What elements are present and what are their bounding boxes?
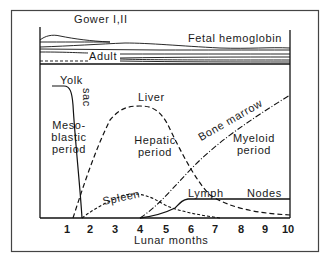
tick-9: 9 — [262, 224, 268, 235]
label-mesoblastic-1: Meso- — [48, 120, 90, 131]
label-liver: Liver — [138, 92, 165, 103]
label-myeloid-1: Myeloid — [228, 133, 280, 144]
label-lymph: Lymph — [188, 188, 224, 199]
adult-band-bottom — [120, 61, 290, 62]
hematopoiesis-diagram: Gower I,II Fetal hemoglobin Adult Yolk s… — [0, 0, 335, 263]
gower-band-top — [40, 35, 110, 42]
label-nodes: Nodes — [247, 188, 282, 199]
label-gower: Gower I,II — [74, 14, 128, 25]
label-adult: Adult — [88, 51, 118, 62]
label-yolk: Yolk — [60, 75, 83, 86]
adult-band-top — [120, 57, 290, 58]
tick-3: 3 — [112, 224, 118, 235]
x-axis-label: Lunar months — [134, 235, 208, 246]
label-sac: sac — [81, 88, 92, 107]
label-mesoblastic-3: period — [48, 144, 90, 155]
fetal-band-mid — [40, 49, 290, 50]
tick-1: 1 — [64, 224, 70, 235]
tick-2: 2 — [87, 224, 93, 235]
tick-8: 8 — [238, 224, 244, 235]
label-myeloid-2: period — [228, 145, 280, 156]
lymph-nodes-curve — [140, 199, 290, 218]
label-fetal-hemoglobin: Fetal hemoglobin — [188, 33, 282, 44]
label-hepatic-1: Hepatic — [130, 135, 180, 146]
adult-band-mid — [120, 59, 290, 60]
tick-10: 10 — [282, 224, 294, 235]
tick-7: 7 — [212, 224, 218, 235]
label-mesoblastic-2: blastic — [48, 132, 90, 143]
label-hepatic-2: period — [130, 147, 180, 158]
fetal-band-bottom — [40, 52, 290, 54]
